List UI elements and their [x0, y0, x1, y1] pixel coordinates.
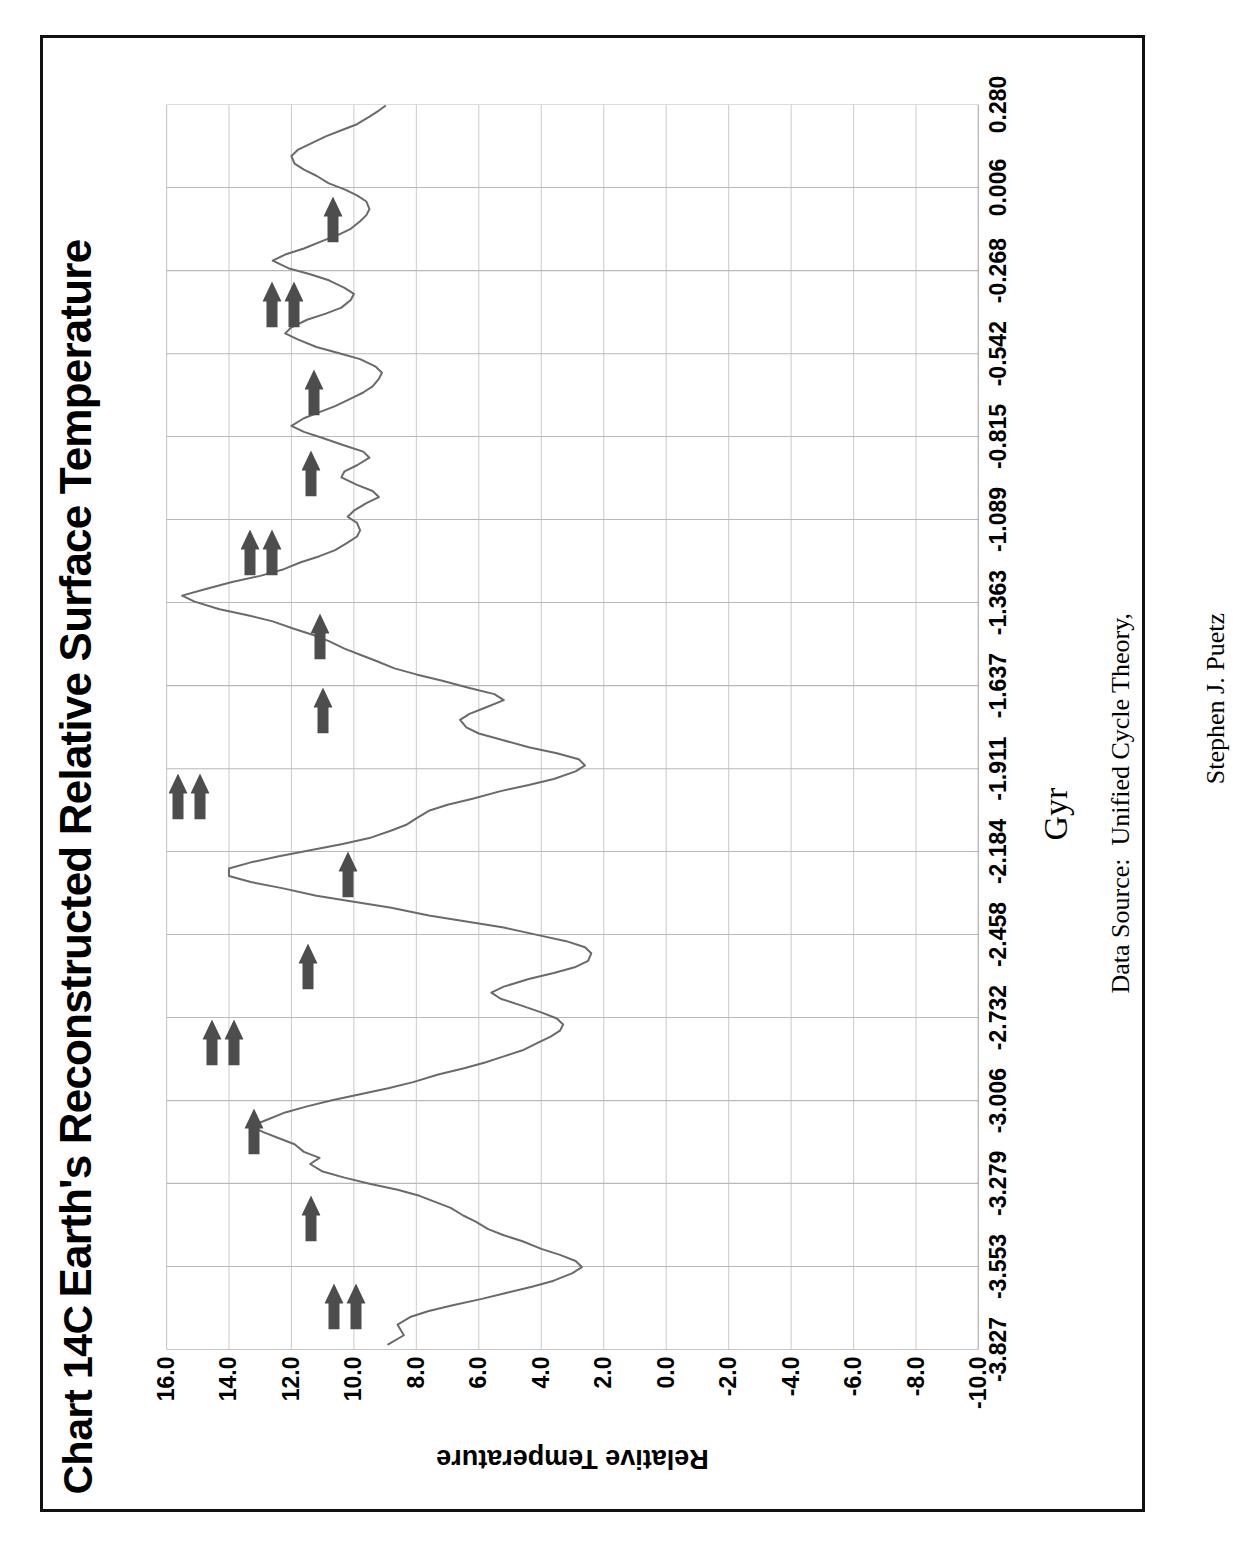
x-tick-label: -0.542: [984, 321, 1011, 386]
annotation-arrow-icon: [262, 529, 281, 575]
y-tick-label: 0.0: [652, 1356, 679, 1388]
x-tick-label: -1.089: [984, 486, 1011, 551]
annotation-arrow-icon: [298, 943, 317, 989]
y-tick-label: -4.0: [777, 1356, 804, 1396]
annotation-arrow-icon: [202, 1019, 221, 1065]
y-tick-label: 6.0: [465, 1356, 492, 1388]
x-tick-label: 0.006: [984, 158, 1011, 216]
annotation-arrow-icon: [313, 687, 332, 733]
x-tick-label: -1.637: [984, 653, 1011, 718]
data-source-note: Data Source: Unified Cycle Theory, Steph…: [1072, 613, 1234, 1033]
annotation-arrow-icon: [338, 851, 357, 897]
y-tick-label: -6.0: [840, 1356, 867, 1396]
x-axis-title: Gyr: [1036, 35, 1074, 1512]
annotation-arrow-icon: [190, 773, 209, 819]
annotation-arrow-icon: [224, 1019, 243, 1065]
annotation-arrow-icon: [310, 613, 329, 659]
annotation-arrow-icon: [324, 1283, 343, 1329]
x-tick-label: -1.911: [984, 736, 1011, 800]
rotated-figure-canvas: Chart 14C Earth's Reconstructed Relative…: [40, 35, 1145, 1512]
annotation-arrow-icon: [262, 281, 281, 327]
annotation-arrow-icon: [168, 773, 187, 819]
annotation-arrow-icon: [346, 1283, 365, 1329]
x-tick-label: -2.458: [984, 901, 1011, 966]
annotation-arrow-icon: [304, 369, 323, 415]
y-tick-label: -2.0: [715, 1356, 742, 1396]
x-tick-label: -2.732: [984, 984, 1011, 1049]
y-tick-label: 4.0: [527, 1356, 554, 1388]
annotation-arrow-icon: [240, 529, 259, 575]
y-tick-label: 2.0: [590, 1356, 617, 1388]
x-tick-label: 0.280: [984, 75, 1011, 133]
y-tick-label: -8.0: [902, 1356, 929, 1396]
annotation-arrow-icon: [244, 1108, 263, 1154]
y-tick-label: -10.0: [965, 1356, 992, 1408]
x-axis-tick-labels: -3.827-3.553-3.279-3.006-2.732-2.458-2.1…: [984, 104, 1018, 1349]
annotation-arrow-icon: [323, 196, 342, 242]
x-tick-label: -3.279: [984, 1150, 1011, 1215]
y-tick-label: 16.0: [153, 1356, 180, 1401]
x-tick-label: -0.815: [984, 403, 1011, 468]
y-axis-title: Relative Temperature: [166, 1438, 978, 1478]
x-tick-label: -0.268: [984, 238, 1011, 303]
annotation-arrow-icon: [301, 1195, 320, 1241]
y-tick-label: 10.0: [340, 1356, 367, 1401]
annotation-arrow-icon: [284, 281, 303, 327]
y-tick-label: 8.0: [402, 1356, 429, 1388]
y-tick-label: 14.0: [215, 1356, 242, 1401]
x-tick-label: -3.553: [984, 1233, 1011, 1298]
y-tick-label: 12.0: [277, 1356, 304, 1401]
chart-number: Chart 14C: [54, 1305, 101, 1494]
annotation-arrow-icon: [301, 451, 320, 497]
x-tick-label: -2.184: [984, 818, 1011, 883]
page-title: Earth's Reconstructed Relative Surface T…: [50, 239, 100, 1297]
figure-frame: Chart 14C Earth's Reconstructed Relative…: [40, 35, 1145, 1512]
x-tick-label: -1.363: [984, 569, 1011, 634]
x-tick-label: -3.006: [984, 1068, 1011, 1133]
